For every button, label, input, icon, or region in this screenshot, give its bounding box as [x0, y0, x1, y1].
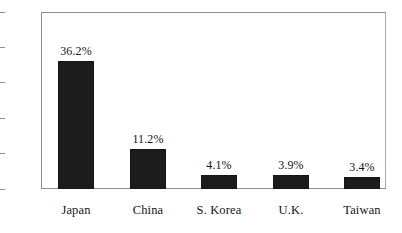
bar-japan: [58, 61, 94, 189]
x-axis-label-china: China: [133, 201, 164, 219]
x-axis-label-uk: U.K.: [279, 201, 304, 219]
bar-s-korea: [201, 175, 237, 190]
bar-chart: 50% 40% 30% 20% 10% 0% 36.2% 11.: [0, 0, 402, 233]
bar-uk: [273, 175, 309, 189]
bar-value-label-s-korea: 4.1%: [206, 158, 231, 172]
bar-value-label-taiwan: 3.4%: [349, 160, 374, 174]
bar-value-label-china: 11.2%: [132, 132, 163, 146]
bar-taiwan: [344, 177, 380, 189]
x-axis-label-taiwan: Taiwan: [343, 201, 381, 219]
x-axis-labels: Japan China S. Korea U.K. Taiwan: [0, 201, 402, 223]
bar-value-label-uk: 3.9%: [278, 158, 303, 172]
bar-value-label-japan: 36.2%: [60, 44, 92, 58]
x-axis-label-s-korea: S. Korea: [197, 201, 242, 219]
x-axis-label-japan: Japan: [61, 201, 90, 219]
bar-china: [130, 149, 166, 189]
bars-layer: 36.2% 11.2% 4.1% 3.9% 3.4%: [0, 0, 402, 233]
